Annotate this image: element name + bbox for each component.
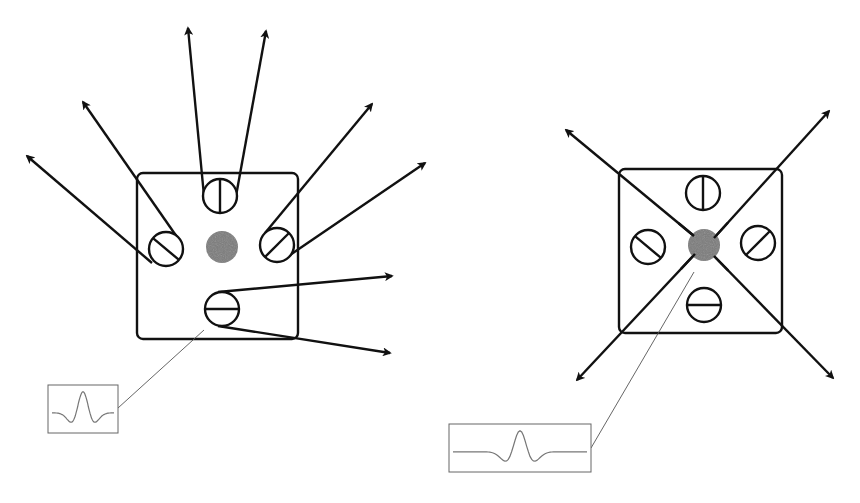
panel-right [449, 111, 833, 472]
detector-right [741, 226, 775, 260]
leader-line [591, 272, 694, 448]
receptive-field-diagram [0, 0, 860, 503]
arrow-origin [714, 256, 728, 271]
panel-left [27, 28, 425, 433]
detector-top [203, 179, 237, 213]
leader-line [118, 330, 204, 408]
arrow-4 [265, 104, 372, 233]
arrow-2 [577, 254, 695, 380]
arrow-0 [566, 130, 694, 236]
arrow-0 [188, 28, 204, 196]
arrow-origin [714, 223, 728, 238]
center-spot [206, 231, 238, 263]
arrow-origin [679, 223, 694, 236]
detector-right [260, 228, 294, 262]
detector-bottom [687, 288, 721, 322]
detector-bottom [205, 292, 239, 326]
detector-left [631, 230, 665, 264]
arrow-6 [218, 276, 392, 292]
arrow-origin [681, 254, 695, 269]
arrow-2 [27, 156, 152, 263]
detector-left [149, 232, 183, 266]
arrow-1 [714, 111, 829, 238]
arrow-3 [714, 256, 833, 378]
waveform-inset [449, 424, 591, 472]
detector-top [686, 176, 720, 210]
waveform-inset [48, 385, 118, 433]
arrow-1 [236, 31, 266, 196]
diagram-canvas [0, 0, 860, 503]
